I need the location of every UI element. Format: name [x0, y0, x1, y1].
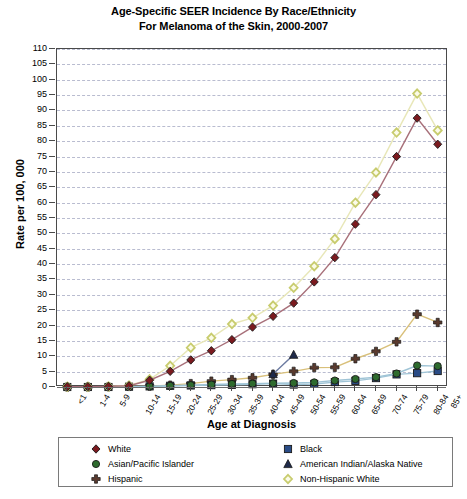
x-axis-tick-label: 10-14	[144, 393, 163, 416]
y-axis-tick-mark	[49, 79, 55, 80]
y-axis-tick-label: 20	[37, 320, 47, 329]
legend-item[interactable]: Asian/Pacific Islander	[89, 457, 194, 471]
plot-area	[56, 48, 447, 386]
y-axis-tick-mark	[49, 232, 55, 233]
x-axis-label: Age at Diagnosis	[56, 418, 447, 430]
x-axis-tick-label: 40-44	[267, 393, 286, 416]
x-axis-tick-label: 75-79	[411, 393, 430, 416]
data-point	[434, 363, 441, 370]
data-point	[249, 314, 257, 322]
x-axis-tick-mark	[87, 386, 88, 391]
y-axis-tick-mark	[49, 63, 55, 64]
legend-item[interactable]: Black	[281, 442, 423, 456]
data-point	[187, 356, 195, 364]
x-axis-tick-label: 20-24	[185, 393, 204, 416]
data-point	[372, 347, 380, 355]
data-point	[207, 334, 215, 342]
data-point	[311, 379, 318, 386]
x-axis-tick-mark	[437, 386, 438, 391]
y-axis-tick-label: 5	[42, 366, 47, 375]
y-axis-tick-mark	[49, 371, 55, 372]
y-axis-tick-mark	[49, 248, 55, 249]
y-axis-tick-mark	[49, 309, 55, 310]
x-axis-tick-mark	[231, 386, 232, 391]
x-axis-tick-mark	[272, 386, 273, 391]
legend-item[interactable]: Non-Hispanic White	[281, 472, 423, 486]
legend-label: White	[108, 444, 131, 454]
y-axis-tick-mark	[49, 202, 55, 203]
data-point	[289, 367, 297, 375]
x-axis-tick-label: 60-64	[350, 393, 369, 416]
y-axis-tick-mark	[49, 263, 55, 264]
y-axis-tick-label: 75	[37, 151, 47, 160]
x-axis-tick-mark	[107, 386, 108, 391]
y-axis-tick-label: 90	[37, 105, 47, 114]
legend-column-right: BlackAmerican Indian/Alaska NativeNon-Hi…	[281, 442, 423, 487]
data-point	[228, 335, 236, 343]
x-axis-tick-label: 65-69	[370, 393, 389, 416]
y-axis-tick-mark	[49, 294, 55, 295]
y-axis-label: Rate per 100, 000	[14, 124, 26, 284]
chart-legend: WhiteAsian/Pacific IslanderHispanic Blac…	[58, 437, 453, 487]
data-point	[249, 323, 257, 331]
y-axis-tick-mark	[49, 171, 55, 172]
data-point	[434, 126, 442, 134]
x-axis-tick-mark	[396, 386, 397, 391]
data-point	[414, 370, 421, 377]
data-point	[414, 362, 421, 369]
y-axis-tick-mark	[49, 125, 55, 126]
circle-marker-icon	[89, 458, 103, 470]
series-layer	[57, 49, 448, 387]
square-marker-icon	[281, 443, 295, 455]
data-point	[413, 89, 421, 97]
x-axis-tick-label: <1	[76, 393, 89, 406]
x-axis-tick-label: 85+	[449, 393, 464, 410]
triangle-marker-icon	[281, 458, 295, 470]
y-axis-tick-mark	[49, 94, 55, 95]
plus-marker-icon	[89, 473, 103, 485]
legend-label: Hispanic	[108, 474, 143, 484]
y-axis-tick-label: 30	[37, 289, 47, 298]
y-axis-tick-mark	[49, 140, 55, 141]
y-axis-tick-label: 55	[37, 213, 47, 222]
x-axis-tick-mark	[210, 386, 211, 391]
y-axis-tick-label: 100	[32, 74, 47, 83]
y-axis-tick-label: 0	[42, 382, 47, 391]
data-point	[331, 377, 338, 384]
data-point	[372, 374, 379, 381]
legend-item[interactable]: American Indian/Alaska Native	[281, 457, 423, 471]
y-axis-tick-label: 85	[37, 120, 47, 129]
y-axis-tick-mark	[49, 217, 55, 218]
legend-label: Black	[300, 444, 322, 454]
y-axis-tick-label: 35	[37, 274, 47, 283]
series-line	[67, 118, 437, 387]
series-non-hispanic-white	[63, 89, 441, 391]
legend-item[interactable]: Hispanic	[89, 472, 194, 486]
x-axis-tick-mark	[252, 386, 253, 391]
legend-item[interactable]: White	[89, 442, 194, 456]
x-axis-tick-label: 25-29	[206, 393, 225, 416]
y-axis-tick-label: 95	[37, 90, 47, 99]
x-axis-tick-mark	[416, 386, 417, 391]
data-point	[393, 152, 401, 160]
y-axis-tick-label: 105	[32, 59, 47, 68]
x-axis-tick-mark	[169, 386, 170, 391]
legend-label: Non-Hispanic White	[300, 474, 380, 484]
y-axis-tick-mark	[49, 325, 55, 326]
data-point	[228, 320, 236, 328]
y-axis-tick-label: 10	[37, 351, 47, 360]
data-point	[393, 370, 400, 377]
y-axis-tick-mark	[49, 340, 55, 341]
y-axis-tick-label: 45	[37, 243, 47, 252]
x-axis-tick-mark	[128, 386, 129, 391]
x-axis-tick-mark	[190, 386, 191, 391]
data-point	[434, 318, 442, 326]
chart-figure: Age-Specific SEER Incidence By Race/Ethn…	[0, 0, 467, 499]
legend-column-left: WhiteAsian/Pacific IslanderHispanic	[89, 442, 194, 487]
x-axis-tick-mark	[334, 386, 335, 391]
y-axis-tick-mark	[49, 156, 55, 157]
y-axis-tick-label: 40	[37, 259, 47, 268]
x-axis-tick-label: 50-54	[309, 393, 328, 416]
x-axis-tick-label: 30-34	[226, 393, 245, 416]
chart-title: Age-Specific SEER Incidence By Race/Ethn…	[0, 4, 467, 19]
